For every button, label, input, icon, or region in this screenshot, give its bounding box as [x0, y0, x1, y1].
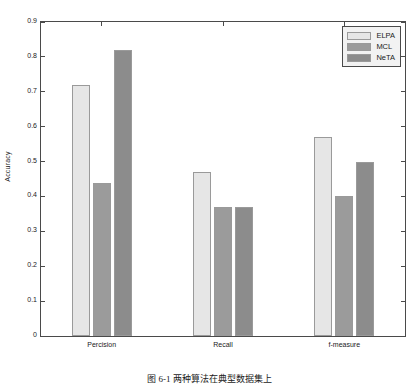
x-tick-mark-top: [223, 22, 224, 26]
plot-area: 00.10.20.30.40.50.60.70.80.9PercisionRec…: [40, 21, 406, 337]
y-tick-label: 0.1: [27, 296, 37, 303]
y-tick-label: 0.2: [27, 261, 37, 268]
y-tick-mark-right: [401, 161, 405, 162]
y-tick-mark-right: [401, 231, 405, 232]
x-tick-label: Recall: [213, 341, 232, 348]
y-tick-label: 0: [33, 331, 37, 338]
chart-legend: ELPA MCL NeTA: [342, 26, 401, 67]
y-tick-label: 0.7: [27, 87, 37, 94]
legend-swatch-mcl: [347, 43, 371, 51]
y-tick-mark-right: [401, 301, 405, 302]
bar-neta-recall: [235, 207, 253, 336]
y-tick-mark: [41, 161, 45, 162]
y-tick-mark: [41, 231, 45, 232]
bar-neta-percision: [114, 50, 132, 336]
y-tick-mark-right: [401, 196, 405, 197]
legend-item-neta: NeTA: [347, 52, 395, 63]
legend-item-elpa: ELPA: [347, 30, 395, 41]
y-tick-mark-right: [401, 126, 405, 127]
y-tick-mark-right: [401, 91, 405, 92]
y-tick-label: 0.6: [27, 122, 37, 129]
y-tick-label: 0.3: [27, 226, 37, 233]
y-tick-mark-right: [401, 22, 405, 23]
figure-container: Accuracy 00.10.20.30.40.50.60.70.80.9Per…: [0, 0, 419, 386]
figure-caption: 图 6-1 两种算法在典型数据集上: [0, 372, 419, 386]
legend-label-elpa: ELPA: [376, 32, 395, 40]
y-tick-mark: [41, 266, 45, 267]
bar-neta-f-measure: [356, 162, 374, 336]
x-tick-label: Percision: [87, 341, 116, 348]
bar-elpa-f-measure: [314, 137, 332, 336]
legend-item-mcl: MCL: [347, 41, 395, 52]
bar-elpa-recall: [193, 172, 211, 336]
y-tick-mark-right: [401, 56, 405, 57]
bar-mcl-f-measure: [335, 196, 353, 336]
legend-label-neta: NeTA: [376, 54, 395, 62]
y-tick-mark: [41, 336, 45, 337]
y-tick-mark: [41, 56, 45, 57]
y-tick-label: 0.8: [27, 52, 37, 59]
y-axis-label: Accuracy: [4, 137, 11, 197]
x-tick-mark-top: [101, 22, 102, 26]
legend-swatch-neta: [347, 54, 371, 62]
y-tick-mark: [41, 301, 45, 302]
y-tick-label: 0.9: [27, 17, 37, 24]
x-tick-label: f-measure: [329, 341, 361, 348]
bar-elpa-percision: [72, 85, 90, 336]
y-tick-label: 0.4: [27, 191, 37, 198]
bars-layer: 00.10.20.30.40.50.60.70.80.9PercisionRec…: [41, 22, 405, 336]
y-tick-mark: [41, 91, 45, 92]
y-tick-label: 0.5: [27, 157, 37, 164]
y-tick-mark: [41, 126, 45, 127]
legend-label-mcl: MCL: [376, 43, 392, 51]
bar-mcl-recall: [214, 207, 232, 336]
y-tick-mark: [41, 196, 45, 197]
y-tick-mark: [41, 22, 45, 23]
bar-mcl-percision: [93, 183, 111, 337]
y-tick-mark-right: [401, 266, 405, 267]
y-tick-mark-right: [401, 336, 405, 337]
legend-swatch-elpa: [347, 32, 371, 40]
